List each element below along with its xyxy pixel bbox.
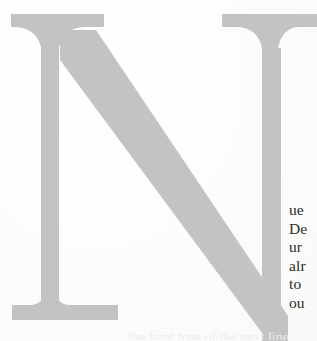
scanned-page: ue De ur alr to ou the faint tops of the… [0, 0, 317, 341]
cropped-next-line: the faint tops of the next line [128, 331, 298, 340]
text-line: alr [289, 257, 317, 276]
text-line: De [289, 220, 317, 239]
text-line: ou [289, 294, 317, 313]
text-line: ue [289, 201, 317, 220]
text-line: ur [289, 238, 317, 257]
text-line: to [289, 275, 317, 294]
body-text-column: ue De ur alr to ou [289, 201, 317, 313]
dropcap-letter-n [0, 0, 317, 341]
